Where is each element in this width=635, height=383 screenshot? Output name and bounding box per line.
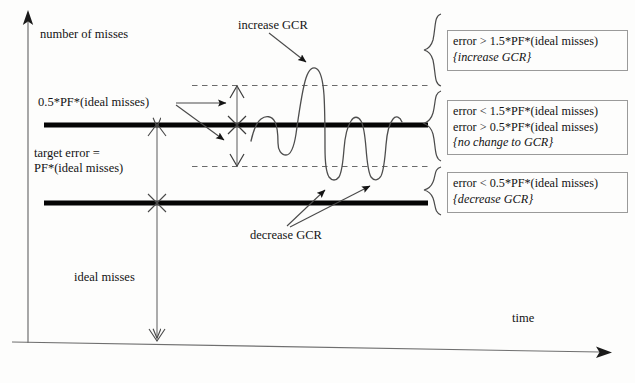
rule-condition: error < 0.5*PF*(ideal misses) [453,176,623,192]
increase-gcr-label: increase GCR [238,18,308,33]
diagram-canvas: number of misses time 0.5*PF*(ideal miss… [0,0,635,383]
rule-action: {increase GCR} [453,50,623,66]
decrease-gcr-arrows [287,186,370,227]
rule-box-increase: error > 1.5*PF*(ideal misses) {increase … [447,30,628,71]
brace-increase [424,14,441,86]
x-axis-label: time [512,311,534,326]
target-error-label: target error = PF*(ideal misses) [34,146,123,177]
ideal-misses-label: ideal misses [74,270,135,285]
half-pf-arrows [176,103,226,140]
x-axis [12,342,612,358]
ideal-misses-measure [148,124,166,341]
rule-condition: error < 1.5*PF*(ideal misses) [453,104,623,120]
rule-action: {decrease GCR} [453,192,623,208]
decrease-gcr-label: decrease GCR [250,228,322,243]
y-axis-label: number of misses [40,27,128,42]
rule-action: {no change to GCR} [453,135,623,151]
increase-gcr-arrow [269,33,306,62]
rule-condition: error > 0.5*PF*(ideal misses) [453,120,623,136]
rule-condition: error > 1.5*PF*(ideal misses) [453,34,623,50]
target-error-line-1: target error = [34,146,123,161]
brace-decrease [424,167,441,215]
y-axis [23,10,33,343]
rule-box-no-change: error < 1.5*PF*(ideal misses) error > 0.… [447,100,628,155]
half-pf-label: 0.5*PF*(ideal misses) [38,95,149,110]
target-error-line-2: PF*(ideal misses) [34,161,123,176]
rule-box-decrease: error < 0.5*PF*(ideal misses) {decrease … [447,172,628,213]
